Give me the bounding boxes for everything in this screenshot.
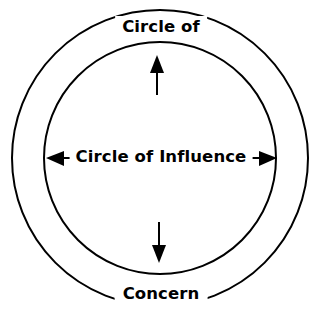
arrow-down-icon	[152, 222, 166, 263]
outer-circle-label-bottom: Concern	[115, 283, 208, 307]
outer-circle-label-top: Circle of	[115, 16, 207, 40]
diagram-canvas: Circle of Circle of Influence Concern	[0, 0, 322, 319]
inner-circle-label: Circle of Influence	[70, 146, 253, 170]
arrow-up-icon	[150, 55, 164, 95]
